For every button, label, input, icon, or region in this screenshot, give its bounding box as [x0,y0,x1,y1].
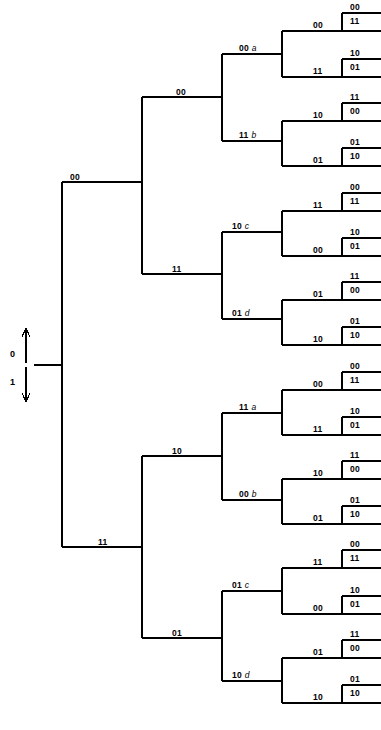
leaf-bracket-3 [342,103,381,121]
leaf-label-above-5: 00 [350,183,360,192]
leaf-label-below-4: 10 [350,152,360,161]
node-letter-L3-6: b [252,489,257,499]
leaf-label-below-16: 10 [350,689,360,698]
leaf-label-above-3: 11 [350,93,359,102]
leaf-label-above-15: 11 [350,630,359,639]
node-label-L4-10: 11 [313,425,322,434]
node-letter-L3-3: c [245,221,249,231]
node-label-L2-3: 10 [172,447,182,456]
node-letter-L3-5: a [251,402,256,412]
node-label-L3-4: 01d [232,309,250,318]
node-letter-L3-1: a [252,43,257,53]
node-label-L4-12: 01 [313,514,323,523]
leaf-bracket-14 [342,596,381,614]
node-code-L3-4: 01 [232,308,242,318]
node-label-L4-2: 11 [313,67,322,76]
leaf-label-above-10: 10 [350,407,360,416]
leaf-label-below-8: 10 [350,331,360,340]
tree-edges [0,0,381,730]
leaf-label-above-14: 10 [350,586,360,595]
leaf-label-below-3: 00 [350,107,360,116]
node-code-L3-5: 11 [239,402,248,412]
leaf-bracket-16 [342,685,381,703]
leaf-label-below-5: 11 [350,197,359,206]
node-code-L3-1: 00 [239,43,249,53]
axis-label-zero: 0 [10,350,15,359]
node-label-L3-6: 00b [239,490,257,499]
leaf-label-above-6: 10 [350,228,360,237]
leaf-bracket-6 [342,238,381,256]
leaf-label-above-13: 00 [350,540,360,549]
leaf-label-below-6: 01 [350,242,360,251]
node-label-L2-2: 11 [172,265,181,274]
node-label-L4-14: 00 [313,604,323,613]
leaf-label-below-15: 00 [350,644,360,653]
leaf-bracket-1 [342,13,381,31]
leaf-label-above-1: 00 [350,3,360,12]
node-label-L3-5: 11a [239,403,256,412]
node-code-L3-6: 00 [239,489,249,499]
tree-diagram-canvas: 0 1 00 11 00 11 10 01 00a 11b 10c 01d 11… [0,0,381,730]
leaf-label-below-2: 01 [350,63,360,72]
node-code-L3-3: 10 [232,221,242,231]
node-code-L3-2: 11 [239,130,248,140]
node-label-L2-4: 01 [172,629,182,638]
leaf-label-above-4: 01 [350,138,360,147]
node-label-L4-9: 00 [313,380,323,389]
node-label-L4-11: 10 [313,469,323,478]
node-label-L4-4: 01 [313,156,323,165]
leaf-label-below-9: 11 [350,376,359,385]
node-label-L4-7: 01 [313,290,323,299]
leaf-label-below-10: 01 [350,421,360,430]
node-label-L1-top: 00 [70,173,80,182]
node-letter-L3-2: b [251,130,256,140]
node-label-L4-16: 10 [313,693,323,702]
node-label-L4-1: 00 [313,21,323,30]
leaf-bracket-12 [342,506,381,524]
leaf-label-above-11: 11 [350,451,359,460]
node-label-L1-bot: 11 [98,538,107,547]
node-label-L3-1: 00a [239,44,257,53]
node-label-L4-3: 10 [313,111,323,120]
node-label-L3-8: 10d [232,671,250,680]
leaf-label-above-7: 11 [350,272,359,281]
leaf-bracket-11 [342,461,381,479]
node-label-L2-1: 00 [176,88,186,97]
leaf-label-above-2: 10 [350,49,360,58]
leaf-label-below-11: 00 [350,465,360,474]
node-label-L3-7: 01c [232,581,249,590]
leaf-label-below-13: 11 [350,554,359,563]
node-label-L3-3: 10c [232,222,249,231]
axis-label-one: 1 [10,378,15,387]
leaf-label-below-7: 00 [350,286,360,295]
leaf-bracket-2 [342,59,381,77]
node-code-L3-8: 10 [232,670,242,680]
leaf-label-above-16: 01 [350,675,360,684]
node-label-L4-6: 00 [313,246,323,255]
leaf-bracket-7 [342,282,381,300]
leaf-bracket-8 [342,327,381,345]
leaf-bracket-10 [342,417,381,435]
leaf-label-above-9: 00 [350,362,360,371]
node-label-L4-15: 01 [313,648,323,657]
node-label-L4-8: 10 [313,335,323,344]
leaf-label-below-14: 01 [350,600,360,609]
node-letter-L3-7: c [245,580,249,590]
node-code-L3-7: 01 [232,580,242,590]
leaf-bracket-13 [342,550,381,568]
node-label-L3-2: 11b [239,131,256,140]
node-label-L4-5: 11 [313,201,322,210]
node-letter-L3-8: d [245,670,250,680]
node-label-L4-13: 11 [313,558,322,567]
leaf-label-above-8: 01 [350,317,360,326]
leaf-label-below-12: 10 [350,510,360,519]
node-letter-L3-4: d [245,308,250,318]
leaf-bracket-4 [342,148,381,166]
leaf-bracket-15 [342,640,381,658]
leaf-bracket-5 [342,193,381,211]
leaf-label-above-12: 01 [350,496,360,505]
leaf-bracket-9 [342,372,381,390]
leaf-label-below-1: 11 [350,17,359,26]
